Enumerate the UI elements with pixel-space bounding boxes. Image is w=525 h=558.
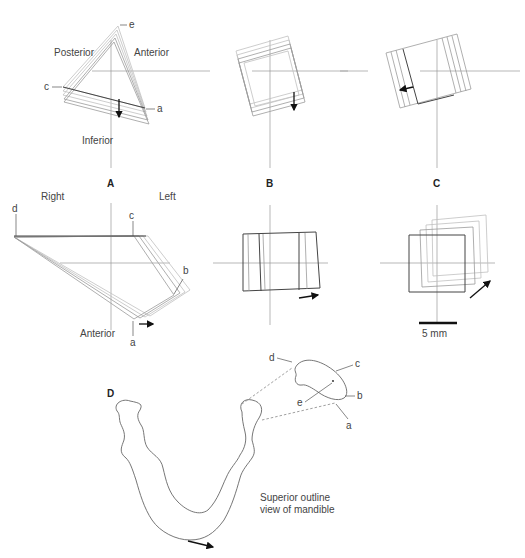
- condyle-point-c-label: c: [355, 358, 360, 369]
- point-a-label: a: [130, 337, 136, 348]
- square-traces: [409, 215, 488, 292]
- arrow-diagonal-icon: [470, 281, 490, 298]
- point-a-label: a: [157, 103, 163, 114]
- anterior-label: Anterior: [134, 47, 170, 58]
- right-label: Right: [41, 191, 65, 202]
- condyle-enlarged-outline: [295, 360, 347, 399]
- scale-bar-label: 5 mm: [422, 328, 447, 339]
- arrow-left-icon: [400, 87, 413, 90]
- panel-d-mandible: D d c b e a Superior outline view of man…: [107, 352, 363, 547]
- condyle-point-a-label: a: [346, 420, 352, 431]
- jaw-motion-figure: e c a Posterior Anterior Inferior A B: [0, 0, 525, 558]
- condyle-center-point: [332, 380, 334, 382]
- mandible-outline: [116, 400, 262, 540]
- panel-label-c: C: [433, 178, 440, 189]
- mandible-caption-line2: view of mandible: [260, 504, 335, 515]
- anterior-label: Anterior: [80, 328, 116, 339]
- posterior-label: Posterior: [54, 47, 95, 58]
- point-b-label: b: [183, 265, 189, 276]
- point-e-label: e: [129, 19, 135, 30]
- panel-c-top: [340, 34, 520, 168]
- point-d-label: d: [12, 203, 18, 214]
- panel-label-a: A: [107, 178, 114, 189]
- panel-c-bottom: 5 mm: [380, 205, 495, 339]
- mandible-caption-line1: Superior outline: [260, 492, 330, 503]
- arrow-right-icon: [299, 295, 318, 298]
- condyle-point-d-label: d: [269, 352, 275, 363]
- panel-b-top: [200, 36, 348, 168]
- polygon-traces: [14, 236, 190, 319]
- condyle-point-b-label: b: [357, 390, 363, 401]
- left-label: Left: [159, 191, 176, 202]
- condyle-point-e-label: e: [297, 397, 303, 408]
- inferior-label: Inferior: [82, 135, 114, 146]
- point-c-label: c: [129, 210, 134, 221]
- panel-a-top: e c a Posterior Anterior Inferior: [44, 19, 200, 168]
- triangle-traces: [63, 26, 149, 124]
- panel-label-d: D: [107, 388, 114, 399]
- panel-b-bottom: [213, 205, 328, 325]
- panel-a-bottom: d c b a Right Left Anterior: [12, 191, 190, 348]
- point-c-label: c: [44, 81, 49, 92]
- panel-label-b: B: [266, 178, 273, 189]
- zoom-guide-line-top: [242, 368, 292, 404]
- arrow-right-icon: [188, 541, 213, 547]
- square-traces: [243, 232, 320, 291]
